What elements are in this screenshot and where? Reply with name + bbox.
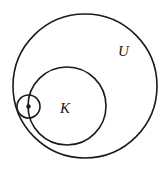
diagram-canvas: U K bbox=[0, 0, 167, 173]
center-point-dot bbox=[26, 104, 30, 108]
label-subset-k: K bbox=[59, 100, 71, 116]
figure-background bbox=[0, 0, 167, 173]
label-universe-u: U bbox=[118, 43, 130, 59]
set-diagram-figure: U K bbox=[0, 0, 167, 173]
